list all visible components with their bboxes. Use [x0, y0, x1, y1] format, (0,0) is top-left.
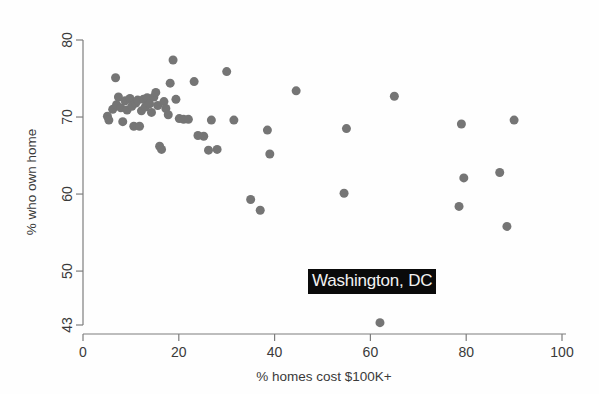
x-tick-label: 0 — [79, 344, 87, 360]
washington-dc-annotation-label: Washington, DC — [312, 271, 432, 291]
data-point — [229, 116, 238, 125]
data-point — [390, 92, 399, 101]
washington-dc-annotation: Washington, DC — [308, 269, 436, 294]
data-point — [455, 202, 464, 211]
x-tick-label: 60 — [363, 344, 379, 360]
data-point — [222, 67, 231, 76]
data-point — [457, 119, 466, 128]
data-point — [169, 56, 178, 65]
data-point — [292, 86, 301, 95]
data-point — [502, 222, 511, 231]
x-tick-label: 20 — [171, 344, 187, 360]
y-tick-label: 60 — [59, 186, 75, 202]
data-point — [340, 189, 349, 198]
plot-canvas: 4350607080 020406080100 % who own home %… — [0, 0, 599, 394]
x-tick-label: 80 — [458, 344, 474, 360]
y-tick-label: 43 — [59, 317, 75, 333]
data-point — [184, 115, 193, 124]
data-point — [147, 108, 156, 117]
data-point — [342, 124, 351, 133]
data-point — [375, 318, 384, 327]
data-point — [495, 168, 504, 177]
data-point — [265, 150, 274, 159]
data-point — [510, 116, 519, 125]
x-axis-ticks: 020406080100 — [79, 334, 574, 360]
data-point — [104, 116, 113, 125]
data-point — [151, 88, 160, 97]
data-point — [246, 195, 255, 204]
data-point — [256, 206, 265, 215]
scatter-plot-figure: 4350607080 020406080100 % who own home %… — [0, 0, 599, 394]
y-tick-label: 50 — [59, 263, 75, 279]
data-point — [118, 117, 127, 126]
data-point — [166, 79, 175, 88]
data-point — [263, 126, 272, 135]
x-tick-label: 40 — [267, 344, 283, 360]
data-point — [157, 145, 166, 154]
data-point — [204, 146, 213, 155]
data-point — [171, 95, 180, 104]
y-axis-ticks: 4350607080 — [59, 32, 83, 333]
data-point — [199, 132, 208, 141]
data-point — [190, 77, 199, 86]
data-point — [213, 145, 222, 154]
data-point — [459, 173, 468, 182]
data-point — [207, 116, 216, 125]
y-tick-label: 80 — [59, 32, 75, 48]
y-tick-label: 70 — [59, 109, 75, 125]
data-point — [164, 110, 173, 119]
x-tick-label: 100 — [550, 344, 574, 360]
x-axis-title: % homes cost $100K+ — [256, 369, 392, 384]
data-point — [111, 73, 120, 82]
y-axis-title: % who own home — [24, 129, 39, 236]
data-point — [135, 122, 144, 131]
